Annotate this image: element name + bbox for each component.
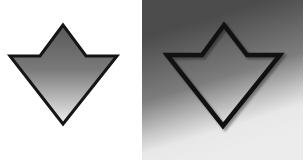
left-panel — [0, 0, 140, 165]
down-arrow-icon-gradient-filled — [0, 0, 140, 165]
right-panel — [142, 0, 303, 160]
down-arrow-icon-outline — [142, 0, 303, 160]
